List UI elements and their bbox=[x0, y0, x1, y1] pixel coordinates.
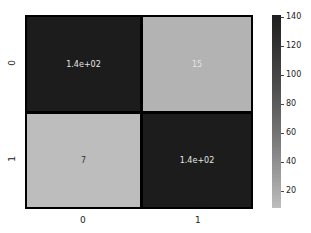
colorbar-tick bbox=[281, 46, 284, 47]
cell-1-0: 7 bbox=[27, 114, 140, 207]
colorbar-label-100: 100 bbox=[286, 71, 301, 79]
colorbar-tick bbox=[281, 133, 284, 134]
heatmap: 1.4e+02 15 7 1.4e+02 bbox=[25, 15, 253, 209]
cell-0-0-label: 1.4e+02 bbox=[66, 60, 101, 69]
colorbar-tick bbox=[281, 104, 284, 105]
x-tick-1: 1 bbox=[195, 215, 201, 225]
x-tick-0: 0 bbox=[80, 215, 86, 225]
colorbar-label-140: 140 bbox=[286, 13, 301, 21]
cell-0-1: 15 bbox=[143, 17, 251, 111]
colorbar-tick bbox=[281, 17, 284, 18]
cell-0-1-label: 15 bbox=[192, 60, 202, 69]
colorbar-label-120: 120 bbox=[286, 42, 301, 50]
cell-0-0: 1.4e+02 bbox=[27, 17, 140, 111]
cell-1-1: 1.4e+02 bbox=[143, 114, 251, 207]
colorbar-label-60: 60 bbox=[286, 129, 296, 137]
colorbar bbox=[272, 15, 281, 208]
colorbar-label-80: 80 bbox=[286, 100, 296, 108]
cell-1-1-label: 1.4e+02 bbox=[180, 156, 215, 165]
cell-1-0-label: 7 bbox=[81, 156, 86, 165]
colorbar-tick bbox=[281, 75, 284, 76]
colorbar-label-40: 40 bbox=[286, 158, 296, 166]
colorbar-tick bbox=[281, 191, 284, 192]
y-tick-1: 1 bbox=[7, 156, 17, 162]
colorbar-label-20: 20 bbox=[286, 187, 296, 195]
y-tick-0: 0 bbox=[7, 60, 17, 66]
colorbar-tick bbox=[281, 162, 284, 163]
